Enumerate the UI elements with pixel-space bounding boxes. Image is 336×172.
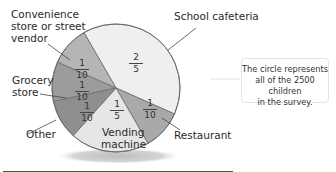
fraction-numerator: 2 [129,53,143,64]
pie-chart-figure: Convenience store or street vendor Schoo… [0,0,336,172]
annotation-line2: all of the 2500 children [242,75,328,97]
fraction-denominator: 5 [129,64,143,74]
label-convenience-line1: Convenience [11,8,79,20]
fraction-numerator: 1 [75,81,89,92]
bottom-divider [3,171,233,172]
fraction-denominator: 10 [80,113,94,123]
fraction-numerator: 1 [143,99,157,110]
label-convenience-line2: store or street [11,20,86,32]
fraction-other: 1 10 [80,102,94,123]
fraction-grocery-store: 1 10 [75,81,89,102]
label-grocery-line1: Grocery [12,74,53,86]
fraction-numerator: 1 [80,102,94,113]
label-convenience-line3: vendor [11,32,48,44]
annotation-note: The circle represents all of the 2500 ch… [241,58,329,103]
fraction-denominator: 5 [110,111,124,121]
label-vending-line2: machine [101,138,146,150]
fraction-school-cafeteria: 2 5 [129,53,143,74]
label-school-cafeteria: School cafeteria [174,10,259,22]
annotation-line1: The circle represents [242,64,328,75]
leader-school [168,28,196,50]
label-restaurant: Restaurant [174,129,231,141]
fraction-denominator: 10 [143,110,157,120]
fraction-numerator: 1 [75,59,89,70]
fraction-numerator: 1 [110,100,124,111]
fraction-convenience-store: 1 10 [75,59,89,80]
fraction-denominator: 10 [75,70,89,80]
label-other: Other [26,128,56,140]
fraction-vending-machine: 1 5 [110,100,124,121]
fraction-restaurant: 1 10 [143,99,157,120]
label-vending-line1: Vending [102,126,144,138]
label-grocery-line2: store [12,86,39,98]
annotation-line3: in the survey. [242,97,328,108]
